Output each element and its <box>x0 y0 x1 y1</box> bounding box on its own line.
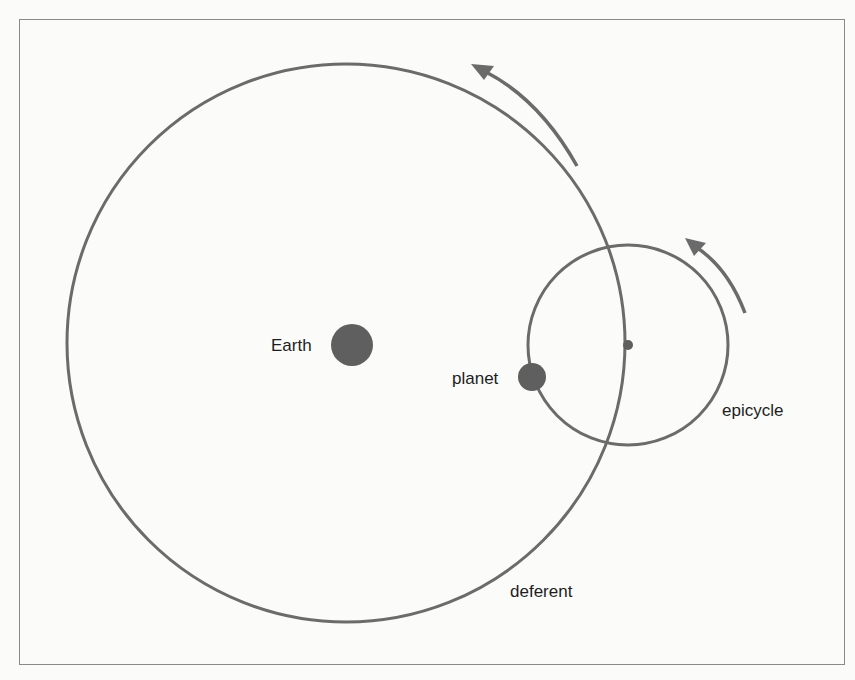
planet-body <box>518 363 546 391</box>
earth-body <box>331 324 373 366</box>
deferent-direction-arrow-icon <box>471 64 577 166</box>
epicycle-direction-arrow-icon <box>685 238 745 313</box>
deferent-label: deferent <box>510 583 572 600</box>
epicycle-label: epicycle <box>722 402 783 419</box>
planet-label: planet <box>452 370 498 387</box>
epicycle-center-dot <box>623 340 633 350</box>
earth-label: Earth <box>271 337 312 354</box>
epicycle-diagram <box>0 0 855 680</box>
